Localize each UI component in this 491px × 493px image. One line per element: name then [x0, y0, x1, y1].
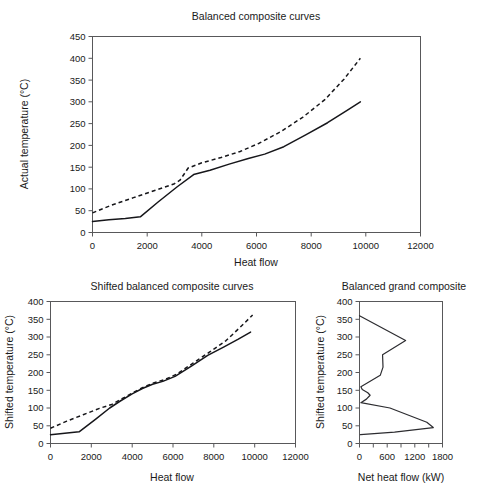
grand-composite-svg: Balanced grand composite 050100150200250… [312, 272, 491, 493]
cold-composite-curve-top [93, 102, 361, 222]
x-tick-label: 1800 [432, 451, 453, 462]
y-tick-label: 200 [28, 367, 44, 378]
chart-panel-balanced-composite: Balanced composite curves 05010015020025… [0, 0, 491, 272]
x-tick-label: 0 [48, 451, 53, 462]
y-tick-label: 200 [337, 367, 353, 378]
y-axis-ticks-bottom-right: 050100150200250300350400 [337, 296, 360, 449]
x-tick-label: 0 [357, 451, 362, 462]
x-tick-label: 0 [90, 240, 95, 251]
x-tick-label: 4000 [122, 451, 143, 462]
y-tick-label: 300 [28, 331, 44, 342]
chart-title-shifted-composite: Shifted balanced composite curves [91, 280, 254, 292]
y-tick-label: 100 [70, 183, 86, 194]
chart-panel-shifted-composite: Shifted balanced composite curves 050100… [0, 272, 312, 493]
shifted-composite-svg: Shifted balanced composite curves 050100… [0, 272, 312, 493]
x-axis-ticks-bottom-right: 060012001800 [357, 444, 453, 462]
y-tick-label: 100 [337, 402, 353, 413]
x-tick-label: 10000 [241, 451, 267, 462]
chart-title-balanced-composite: Balanced composite curves [192, 10, 320, 22]
plot-frame-bottom-left [51, 302, 296, 444]
y-axis-ticks-bottom-left: 050100150200250300350400 [28, 296, 51, 449]
x-tick-label: 600 [379, 451, 395, 462]
y-tick-label: 50 [75, 205, 86, 216]
y-tick-label: 50 [342, 420, 353, 431]
y-tick-label: 250 [28, 349, 44, 360]
x-tick-label: 10000 [353, 240, 379, 251]
x-tick-label: 8000 [203, 451, 224, 462]
balanced-composite-svg: Balanced composite curves 05010015020025… [0, 0, 491, 272]
y-tick-label: 350 [70, 75, 86, 86]
x-tick-label: 2000 [81, 451, 102, 462]
x-tick-label: 8000 [301, 240, 322, 251]
y-tick-label: 400 [70, 53, 86, 64]
y-tick-label: 150 [28, 385, 44, 396]
y-tick-label: 0 [80, 227, 85, 238]
y-tick-label: 100 [28, 402, 44, 413]
y-tick-label: 150 [337, 385, 353, 396]
y-tick-label: 350 [337, 314, 353, 325]
y-tick-label: 400 [28, 296, 44, 307]
y-tick-label: 250 [337, 349, 353, 360]
y-tick-label: 250 [70, 118, 86, 129]
y-tick-label: 300 [70, 96, 86, 107]
x-axis-label-bottom-right: Net heat flow (kW) [358, 471, 444, 483]
y-tick-label: 300 [337, 331, 353, 342]
y-tick-label: 450 [70, 31, 86, 42]
y-tick-label: 400 [337, 296, 353, 307]
x-tick-label: 12000 [407, 240, 433, 251]
hot-shifted-curve [51, 315, 253, 428]
y-axis-label-bottom-left: Shifted temperature (°C) [3, 315, 15, 429]
grand-composite-curve [360, 316, 434, 435]
x-tick-label: 6000 [162, 451, 183, 462]
y-tick-label: 350 [28, 314, 44, 325]
chart-panel-grand-composite: Balanced grand composite 050100150200250… [312, 272, 491, 493]
y-tick-label: 50 [33, 420, 44, 431]
x-axis-label-top: Heat flow [234, 256, 278, 268]
x-axis-label-bottom-left: Heat flow [150, 471, 194, 483]
x-tick-label: 12000 [282, 451, 308, 462]
y-tick-label: 0 [38, 438, 43, 449]
cold-shifted-curve [51, 332, 251, 435]
plot-frame-top [93, 37, 421, 233]
hot-composite-curve-top [93, 58, 361, 213]
x-axis-ticks-top: 020004000600080001000012000 [90, 233, 434, 251]
y-tick-label: 0 [347, 438, 352, 449]
y-axis-label-bottom-right: Shifted temperature (°C) [314, 315, 326, 429]
y-axis-ticks-top: 050100150200250300350400450 [70, 31, 93, 238]
chart-title-grand-composite: Balanced grand composite [342, 280, 466, 292]
x-tick-label: 6000 [246, 240, 267, 251]
y-tick-label: 200 [70, 140, 86, 151]
x-axis-ticks-bottom-left: 020004000600080001000012000 [48, 444, 309, 462]
pinch-analysis-figure: Balanced composite curves 05010015020025… [0, 0, 491, 493]
x-tick-label: 1200 [404, 451, 425, 462]
x-tick-label: 4000 [191, 240, 212, 251]
y-tick-label: 150 [70, 162, 86, 173]
y-axis-label-top: Actual temperature (°C) [18, 79, 30, 189]
x-tick-label: 2000 [137, 240, 158, 251]
